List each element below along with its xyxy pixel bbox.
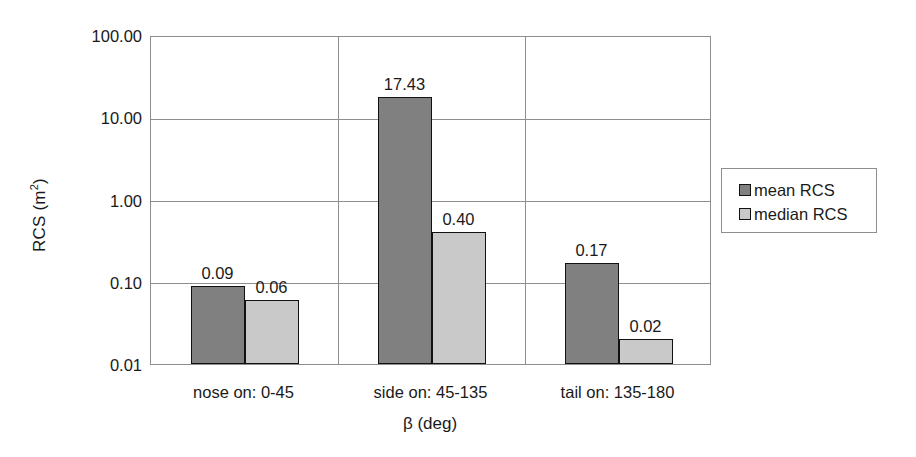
y-axis-tick-label: 100.00 xyxy=(56,27,142,46)
bar-value-label: 0.02 xyxy=(629,317,661,336)
y-axis-tick-label: 1.00 xyxy=(56,191,142,210)
legend-item-label: mean RCS xyxy=(754,182,835,199)
plot-area: 0.090.0617.430.400.170.02 xyxy=(150,36,711,365)
x-axis-title: β (deg) xyxy=(403,414,457,434)
bar-value-label: 0.09 xyxy=(201,264,233,283)
bar-value-label: 0.17 xyxy=(575,241,607,260)
category-separator xyxy=(338,37,339,364)
y-axis-title: RCS (m2) xyxy=(30,178,50,252)
bar-median xyxy=(432,232,486,364)
bar-median xyxy=(619,339,673,364)
bar-value-label: 0.40 xyxy=(442,210,474,229)
y-axis-tick-label: 10.00 xyxy=(56,109,142,128)
legend-swatch-icon xyxy=(739,208,751,220)
x-axis-category-label: tail on: 135-180 xyxy=(561,383,675,402)
bar-median xyxy=(245,300,299,364)
x-axis-category-label: nose on: 0-45 xyxy=(193,383,294,402)
bar-mean xyxy=(565,263,619,364)
legend-item-label: median RCS xyxy=(754,206,848,223)
x-axis-category-label: side on: 45-135 xyxy=(374,383,488,402)
bar-mean xyxy=(191,286,245,364)
y-axis-title-text: RCS (m xyxy=(30,190,49,252)
category-separator xyxy=(525,37,526,364)
legend-item[interactable]: median RCS xyxy=(739,202,876,226)
legend-swatch-icon xyxy=(739,184,751,196)
y-axis-title-exponent: 2 xyxy=(28,184,40,190)
rcs-bar-chart: RCS (m2) 100.0010.001.000.100.01 0.090.0… xyxy=(0,0,916,457)
bar-value-label: 0.06 xyxy=(255,278,287,297)
legend: mean RCSmedian RCS xyxy=(721,168,877,233)
y-axis-title-paren: ) xyxy=(30,178,49,184)
y-axis-tick-label: 0.01 xyxy=(56,356,142,375)
y-axis-tick-label: 0.10 xyxy=(56,273,142,292)
bar-value-label: 17.43 xyxy=(384,75,425,94)
bar-mean xyxy=(378,97,432,364)
y-axis-tick-labels: 100.0010.001.000.100.01 xyxy=(52,36,142,365)
legend-item[interactable]: mean RCS xyxy=(739,178,876,202)
